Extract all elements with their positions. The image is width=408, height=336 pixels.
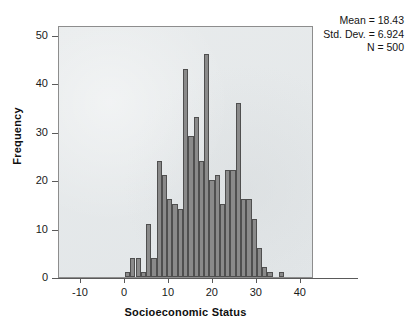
y-tick [52,84,58,85]
bar-series [59,27,312,277]
y-tick-label: 50 [22,29,48,41]
y-tick [52,181,58,182]
y-tick-label: 30 [22,126,48,138]
histogram-bar [267,272,272,277]
stat-n: N = 500 [300,41,404,55]
stat-mean: Mean = 18.43 [300,14,404,28]
x-tick-label: 20 [192,286,232,298]
x-tick [168,278,169,283]
y-tick [52,36,58,37]
y-tick-label: 10 [22,223,48,235]
y-tick [52,230,58,231]
y-tick [52,278,58,279]
x-axis-title: Socioeconomic Status [58,306,313,318]
x-tick-label: 0 [104,286,144,298]
x-tick [300,278,301,283]
x-tick [212,278,213,283]
x-tick-label: 10 [148,286,188,298]
statistics-annotation: Mean = 18.43 Std. Dev. = 6.924 N = 500 [300,14,404,55]
x-tick-label: -10 [60,286,100,298]
plot-area [58,26,313,278]
y-tick-label: 20 [22,174,48,186]
y-axis-title: Frequency [11,81,23,191]
x-tick [124,278,125,283]
y-tick-label: 40 [22,77,48,89]
histogram-figure: -10010203040 01020304050 Socioeconomic S… [0,0,408,336]
stat-std-dev: Std. Dev. = 6.924 [300,28,404,42]
y-tick-label: 0 [22,271,48,283]
x-tick [80,278,81,283]
x-tick [256,278,257,283]
y-tick [52,133,58,134]
x-tick-label: 40 [280,286,320,298]
histogram-bar [279,272,284,277]
x-tick-label: 30 [236,286,276,298]
x-axis-line [58,278,358,279]
